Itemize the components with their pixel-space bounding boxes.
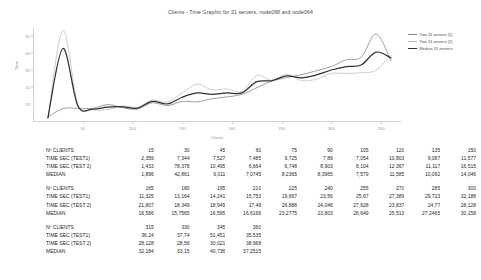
table-cell: 28,128 bbox=[118, 239, 154, 247]
table-cell: 35,535 bbox=[225, 231, 261, 239]
table-cell: 15 bbox=[118, 146, 154, 154]
x-axis-tick-mark bbox=[282, 121, 283, 124]
table-cell bbox=[333, 239, 369, 247]
table-cell: 16,595 bbox=[190, 209, 226, 217]
table-cell bbox=[261, 247, 297, 255]
table-cell: 9,087 bbox=[404, 154, 440, 162]
table-cell: 23,803 bbox=[297, 209, 333, 217]
table-cell bbox=[333, 223, 369, 231]
table-cell: 24,77 bbox=[404, 201, 440, 209]
table-cell: 38,968 bbox=[225, 239, 261, 247]
table-cell: 11,577 bbox=[440, 154, 476, 162]
table-cell: 330 bbox=[154, 223, 190, 231]
data-table-block: Nº CLIENTS315330345360TIME SEC (TEST1)36… bbox=[46, 223, 476, 255]
table-cell: 10,495 bbox=[190, 162, 226, 170]
table-cell: 255 bbox=[333, 184, 369, 192]
table-cell bbox=[369, 223, 405, 231]
table-row: MEDIAN32,18433,1540,73637,2515 bbox=[46, 247, 476, 255]
legend-color-swatch bbox=[408, 41, 417, 42]
table-cell: 285 bbox=[404, 184, 440, 192]
table-cell: 14,046 bbox=[440, 170, 476, 178]
table-cell: 7,054 bbox=[333, 154, 369, 162]
table-cell: 270 bbox=[369, 184, 405, 192]
table-cell: 8,2365 bbox=[261, 170, 297, 178]
legend-item[interactable]: Two 31 servers (2) bbox=[408, 38, 480, 45]
chart-series-line bbox=[48, 34, 391, 117]
table-cell: 195 bbox=[190, 184, 226, 192]
table-cell: 17,48 bbox=[225, 201, 261, 209]
table-cell: 16,515 bbox=[440, 162, 476, 170]
data-table-block: Nº CLIENTS165180195210225240255270285300… bbox=[46, 184, 476, 216]
table-cell bbox=[261, 223, 297, 231]
table-cell: 45 bbox=[190, 146, 226, 154]
table-cell bbox=[369, 247, 405, 255]
table-cell: 30,158 bbox=[440, 209, 476, 217]
table-cell: 26,649 bbox=[333, 209, 369, 217]
table-row-label: TIME SEC (TEST1) bbox=[46, 231, 118, 239]
table-cell bbox=[440, 223, 476, 231]
table-cell bbox=[404, 231, 440, 239]
table-cell: 120 bbox=[369, 146, 405, 154]
y-axis-label: Time bbox=[14, 61, 19, 70]
table-cell: 315 bbox=[118, 223, 154, 231]
table-row-label: Nº CLIENTS bbox=[46, 146, 118, 154]
table-cell: 165 bbox=[118, 184, 154, 192]
legend-item[interactable]: Two 31 servers (1) bbox=[408, 31, 480, 38]
table-cell bbox=[404, 223, 440, 231]
table-cell: 7,0745 bbox=[225, 170, 261, 178]
y-axis-tick-mark bbox=[31, 104, 33, 105]
table-cell bbox=[440, 247, 476, 255]
x-axis-tick-mark bbox=[182, 121, 183, 124]
table-cell: 36,24 bbox=[118, 231, 154, 239]
table-cell: 11,585 bbox=[369, 170, 405, 178]
table-row-label: TIME SEC (TEST1) bbox=[46, 192, 118, 200]
table-cell: 10,803 bbox=[369, 154, 405, 162]
table-cell: 300 bbox=[440, 184, 476, 192]
table-cell: 42,861 bbox=[154, 170, 190, 178]
y-axis-tick-mark bbox=[31, 87, 33, 88]
y-axis-tick-label: 30 bbox=[25, 68, 30, 73]
y-axis-tick-label: 10 bbox=[25, 102, 30, 107]
table-row: TIME SEC (TEST 2)28,12828,5630,02138,968 bbox=[46, 239, 476, 247]
table-row: Nº CLIENTS315330345360 bbox=[46, 223, 476, 231]
y-axis-line bbox=[33, 28, 34, 121]
table-row-label: Nº CLIENTS bbox=[46, 223, 118, 231]
table-cell: 150 bbox=[440, 146, 476, 154]
table-cell: 7,89 bbox=[297, 154, 333, 162]
table-cell: 23,2775 bbox=[261, 209, 297, 217]
x-axis-tick-label: 200 bbox=[228, 126, 235, 131]
table-cell: 28,128 bbox=[440, 201, 476, 209]
table-row-label: TIME SEC (TEST 2) bbox=[46, 162, 118, 170]
table-cell: 8,903 bbox=[297, 162, 333, 170]
table-cell bbox=[261, 239, 297, 247]
table-cell: 78,378 bbox=[154, 162, 190, 170]
table-cell: 180 bbox=[154, 184, 190, 192]
table-cell: 30 bbox=[154, 146, 190, 154]
x-axis-tick-mark bbox=[132, 121, 133, 124]
table-cell: 15,753 bbox=[225, 192, 261, 200]
table-cell: 225 bbox=[261, 184, 297, 192]
table-cell: 1,896 bbox=[118, 170, 154, 178]
table-row: TIME SEC (TEST1)36,2437,7451,45135,535 bbox=[46, 231, 476, 239]
table-cell bbox=[297, 231, 333, 239]
table-cell: 25,67 bbox=[333, 192, 369, 200]
table-cell: 60 bbox=[225, 146, 261, 154]
table-row: TIME SEC (TEST1)2,3597,3447,5277,4859,72… bbox=[46, 154, 476, 162]
table-cell: 25,513 bbox=[369, 209, 405, 217]
table-cell: 9,011 bbox=[190, 170, 226, 178]
table-cell bbox=[404, 239, 440, 247]
table-cell: 30,021 bbox=[190, 239, 226, 247]
table-cell: 16,6166 bbox=[225, 209, 261, 217]
x-axis-tick-mark bbox=[331, 121, 332, 124]
table-cell: 240 bbox=[297, 184, 333, 192]
chart-title: Clients - Time Graphic for 31 servers, n… bbox=[0, 9, 481, 15]
legend-item[interactable]: Median 31 servers bbox=[408, 45, 480, 52]
table-row-label: TIME SEC (TEST 2) bbox=[46, 239, 118, 247]
table-cell bbox=[440, 231, 476, 239]
table-cell bbox=[261, 231, 297, 239]
table-cell: 27,2465 bbox=[404, 209, 440, 217]
x-axis-tick-label: 50 bbox=[80, 126, 85, 131]
table-cell: 90 bbox=[297, 146, 333, 154]
table-row: Nº CLIENTS165180195210225240255270285300 bbox=[46, 184, 476, 192]
table-cell: 32,188 bbox=[440, 192, 476, 200]
